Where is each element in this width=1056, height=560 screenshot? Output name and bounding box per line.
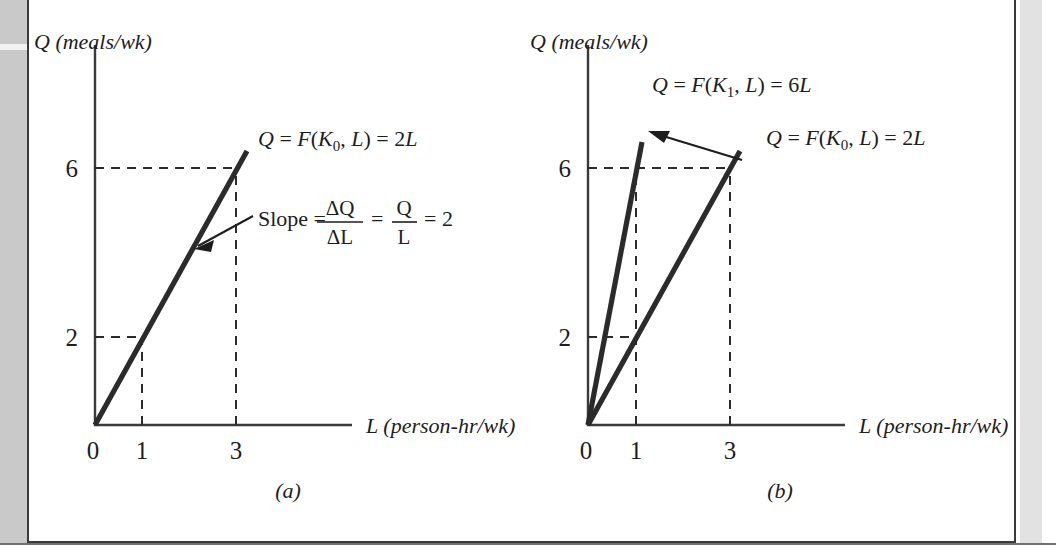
figure-graphics: 6 2 0 1 3 Q (meals/wk) L (person-hr/wk) …: [0, 0, 1056, 560]
panel-b-curve-label-2L: Q = F(K0, L) = 2L: [766, 125, 926, 153]
panel-b-pointer-arrowhead: [648, 131, 670, 143]
panel-b-ytick-6: 6: [559, 155, 572, 182]
panel-a-axes: [95, 45, 352, 425]
panel-a-y-axis-label: Q (meals/wk): [34, 29, 152, 54]
panel-a-caption: (a): [275, 478, 301, 503]
panel-b-y-axis-label: Q (meals/wk): [530, 29, 648, 54]
panel-a-curve-label: Q = F(K0, L) = 2L: [258, 126, 418, 154]
panel-a-slope-label: Slope =: [258, 206, 326, 231]
panel-b-xtick-3: 3: [724, 437, 737, 464]
panel-b-curve-6L: [588, 142, 642, 425]
panel-a-xtick-1: 1: [136, 437, 149, 464]
panel-a-xtick-0: 0: [87, 437, 100, 464]
panel-a-slope-den-2: L: [398, 225, 411, 249]
panel-b-ytick-2: 2: [559, 324, 572, 351]
panel-a-slope-num-2: Q: [396, 196, 411, 220]
panel-b-caption: (b): [767, 478, 793, 503]
figure-root: 6 2 0 1 3 Q (meals/wk) L (person-hr/wk) …: [0, 0, 1056, 560]
panel-a-slope-den-1: ΔL: [327, 225, 353, 249]
panel-a-slope-eq-mid: =: [371, 206, 383, 231]
panel-b-xtick-0: 0: [580, 437, 593, 464]
panel-a-slope-num-1: ΔQ: [326, 196, 355, 220]
panel-a-ytick-2: 2: [66, 324, 79, 351]
panel-b-curve-label-6L: Q = F(K1, L) = 6L: [652, 72, 812, 100]
panel-b-xtick-1: 1: [630, 437, 643, 464]
panel-a-xtick-3: 3: [230, 437, 243, 464]
panel-a-x-axis-label: L (person-hr/wk): [365, 413, 515, 438]
panel-b-curve-2L: [588, 151, 740, 425]
panel-b: 6 2 0 1 3 Q (meals/wk) L (person-hr/wk) …: [530, 29, 1008, 503]
panel-a-curve-2L: [95, 151, 247, 425]
panel-a: 6 2 0 1 3 Q (meals/wk) L (person-hr/wk) …: [34, 29, 515, 503]
panel-b-x-axis-label: L (person-hr/wk): [858, 413, 1008, 438]
panel-a-ytick-6: 6: [66, 155, 79, 182]
panel-a-slope-eq-end: = 2: [424, 206, 453, 231]
